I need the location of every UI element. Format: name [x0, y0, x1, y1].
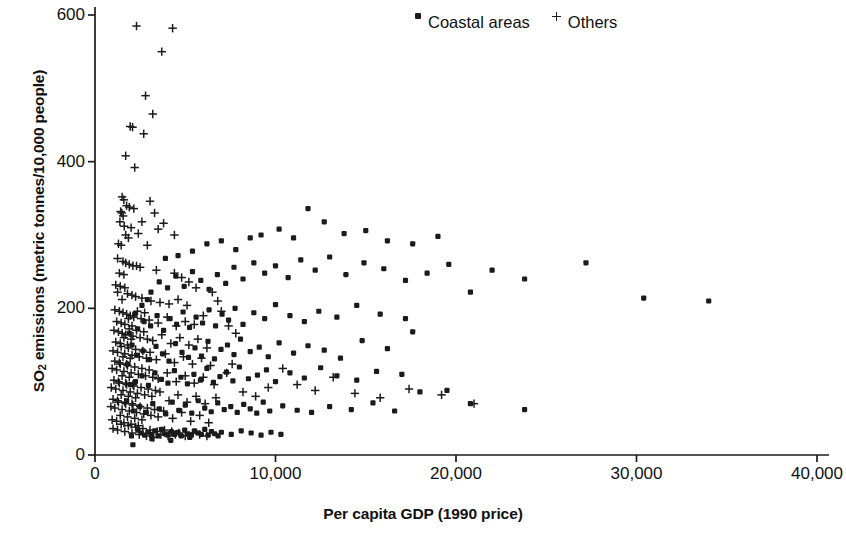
data-point-square	[209, 409, 214, 414]
data-point-square	[641, 295, 646, 300]
data-point-plus	[109, 347, 117, 355]
data-point-square	[468, 290, 473, 295]
data-point-plus	[228, 360, 236, 368]
data-point-square	[354, 303, 359, 308]
data-point-plus	[107, 383, 115, 391]
data-point-plus	[183, 301, 191, 309]
data-point-square	[267, 408, 272, 413]
data-point-square	[257, 345, 262, 350]
data-point-square	[318, 365, 323, 370]
data-point-plus	[351, 389, 359, 397]
data-point-plus	[194, 335, 202, 343]
data-point-plus	[130, 204, 138, 212]
data-point-square	[249, 430, 254, 435]
data-point-plus	[214, 297, 222, 305]
data-point-square	[153, 344, 158, 349]
data-point-square	[385, 346, 390, 351]
data-point-plus	[107, 402, 115, 410]
data-point-plus	[163, 369, 171, 377]
data-point-square	[230, 378, 235, 383]
data-point-plus	[205, 419, 213, 427]
data-point-square	[287, 313, 292, 318]
data-point-plus	[186, 417, 194, 425]
data-point-square	[206, 307, 211, 312]
data-point-square	[354, 378, 359, 383]
data-point-plus	[138, 218, 146, 226]
data-point-square	[349, 407, 354, 412]
data-point-plus	[143, 241, 151, 249]
data-point-plus	[115, 269, 123, 277]
data-point-square	[231, 265, 236, 270]
data-point-square	[165, 381, 170, 386]
data-point-plus	[158, 47, 166, 55]
data-point-square	[241, 402, 246, 407]
data-point-square	[360, 338, 365, 343]
data-point-plus	[121, 152, 129, 160]
data-point-square	[302, 319, 307, 324]
data-point-plus	[120, 270, 128, 278]
data-point-square	[316, 309, 321, 314]
scatter-chart-figure: SO2 emissions (metric tonnes/10,000 peop…	[0, 0, 846, 533]
data-point-plus	[134, 229, 142, 237]
data-point-plus	[185, 341, 193, 349]
data-point-square	[228, 404, 233, 409]
data-point-square	[278, 432, 283, 437]
data-point-square	[378, 312, 383, 317]
data-point-square	[235, 410, 240, 415]
data-point-plus	[167, 339, 175, 347]
data-point-square	[202, 427, 207, 432]
data-point-square	[313, 268, 318, 273]
data-point-square	[444, 388, 449, 393]
data-point-square	[255, 372, 260, 377]
data-point-plus	[203, 344, 211, 352]
data-point-plus	[110, 326, 118, 334]
data-point-plus	[195, 411, 203, 419]
data-point-square	[175, 253, 180, 258]
data-point-square	[193, 315, 198, 320]
data-point-square	[399, 372, 404, 377]
data-point-square	[185, 381, 190, 386]
data-point-plus	[161, 350, 169, 358]
data-point-plus	[405, 385, 413, 393]
data-point-square	[425, 271, 430, 276]
data-point-square	[327, 254, 332, 259]
data-point-square	[280, 403, 285, 408]
data-point-square	[248, 406, 253, 411]
data-point-plus	[223, 369, 231, 377]
data-point-square	[374, 369, 379, 374]
data-point-plus	[192, 284, 200, 292]
data-point-square	[446, 262, 451, 267]
data-point-plus	[156, 298, 164, 306]
data-point-plus	[165, 300, 173, 308]
data-point-plus	[264, 383, 272, 391]
data-point-square	[190, 249, 195, 254]
data-point-square	[212, 356, 217, 361]
data-point-plus	[311, 386, 319, 394]
data-point-square	[204, 366, 209, 371]
data-point-square	[363, 228, 368, 233]
data-point-square	[229, 432, 234, 437]
data-point-plus	[181, 317, 189, 325]
data-point-square	[204, 241, 209, 246]
data-point-square	[237, 364, 242, 369]
data-point-square	[305, 206, 310, 211]
data-point-square	[240, 322, 245, 327]
data-point-square	[232, 306, 237, 311]
data-point-square	[240, 276, 245, 281]
data-point-square	[262, 316, 267, 321]
data-point-square	[264, 367, 269, 372]
data-point-square	[522, 407, 527, 412]
data-point-square	[187, 325, 192, 330]
data-point-square	[231, 352, 236, 357]
data-point-plus	[239, 388, 247, 396]
data-point-square	[277, 340, 282, 345]
data-point-square	[251, 260, 256, 265]
data-point-plus	[149, 336, 157, 344]
data-point-square	[254, 411, 259, 416]
data-point-plus	[154, 413, 162, 421]
data-point-square	[361, 260, 366, 265]
data-point-square	[206, 287, 211, 292]
data-point-plus	[140, 130, 148, 138]
data-point-plus	[154, 225, 162, 233]
data-point-plus	[150, 209, 158, 217]
